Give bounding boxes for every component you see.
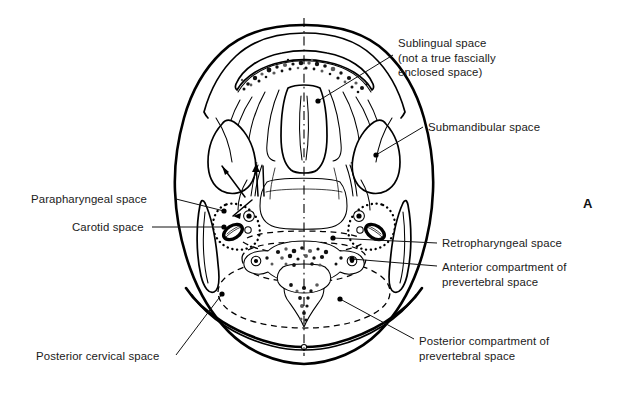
carotid-space-label: Carotid space (72, 221, 144, 233)
anterior-compartment-prevertebral-space-label-line-1: Anterior compartment of (442, 261, 567, 273)
posterior-cervical-space-label: Posterior cervical space (36, 350, 159, 362)
leader-dot-posterior-prevertebral (337, 296, 342, 301)
submandibular-space-label: Submandibular space (428, 121, 540, 133)
sublingual-space-label-line-2: (not a true fascially (398, 52, 496, 64)
submandibular-space-label-line-1: Submandibular space (428, 121, 540, 133)
anatomy-diagram: Sublingual space(not a true fasciallyenc… (0, 0, 629, 393)
sublingual-space-label: Sublingual space(not a true fasciallyenc… (398, 37, 496, 78)
retropharyngeal-space-label: Retropharyngeal space (442, 237, 562, 249)
anatomy-figure-root: Sublingual space(not a true fasciallyenc… (0, 0, 629, 393)
figure-letter: A (583, 196, 593, 211)
anterior-compartment-prevertebral-space-label: Anterior compartment ofprevertebral spac… (442, 261, 567, 288)
posterior-cervical-space-label-line-1: Posterior cervical space (36, 350, 159, 362)
leader-dot-carotid (221, 224, 226, 229)
leader-dot-retropharyngeal (330, 235, 335, 240)
anterior-compartment-prevertebral-space-label-line-2: prevertebral space (442, 276, 538, 288)
leader-line-retropharyngeal (333, 238, 437, 243)
posterior-compartment-prevertebral-space-label-line-1: Posterior compartment of (419, 335, 550, 347)
leader-dot-parapharyngeal (221, 208, 226, 213)
sublingual-space-label-line-1: Sublingual space (398, 37, 486, 49)
posterior-compartment-prevertebral-space-label: Posterior compartment ofprevertebral spa… (419, 335, 550, 362)
leader-dot-submandibular (373, 152, 378, 157)
parapharyngeal-space-label: Parapharyngeal space (31, 193, 147, 205)
leader-dot-sublingual (315, 98, 320, 103)
leader-dot-anterior-prevertebral (349, 256, 354, 261)
retropharyngeal-space-label-line-1: Retropharyngeal space (442, 237, 562, 249)
parapharyngeal-space-label-line-1: Parapharyngeal space (31, 193, 147, 205)
leader-dot-posterior-cervical (219, 291, 224, 296)
carotid-space-label-line-1: Carotid space (72, 221, 144, 233)
posterior-compartment-prevertebral-space-label-line-2: prevertebral space (419, 350, 515, 362)
sublingual-space-label-line-3: enclosed space) (398, 66, 483, 78)
